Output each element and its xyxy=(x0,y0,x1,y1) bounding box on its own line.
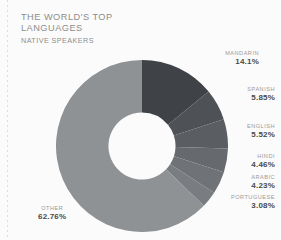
header-block: THE WORLD'S TOP LANGUAGES NATIVE SPEAKER… xyxy=(21,12,171,45)
callout-portuguese: PORTUGUESE 3.08% xyxy=(231,194,275,211)
callout-other-value: 62.76% xyxy=(38,212,66,222)
callout-english: ENGLISH 5.52% xyxy=(247,123,275,140)
callout-english-value: 5.52% xyxy=(247,130,275,140)
callout-mandarin-value: 14.1% xyxy=(225,57,259,67)
callout-mandarin-name: MANDARIN xyxy=(225,50,259,57)
callout-spanish: SPANISH 5.85% xyxy=(247,86,275,103)
left-dotted-rule xyxy=(7,0,8,240)
donut-chart xyxy=(56,60,228,232)
callout-arabic: ARABIC 4.23% xyxy=(251,174,275,191)
callout-hindi-name: HINDI xyxy=(251,153,275,160)
donut-slice-layer xyxy=(56,60,228,232)
donut-chart-svg xyxy=(56,60,228,232)
callout-english-name: ENGLISH xyxy=(247,123,275,130)
callout-hindi-value: 4.46% xyxy=(251,160,275,170)
callout-hindi: HINDI 4.46% xyxy=(251,153,275,170)
infographic-canvas: THE WORLD'S TOP LANGUAGES NATIVE SPEAKER… xyxy=(0,0,281,240)
callout-other: OTHER 62.76% xyxy=(38,205,66,222)
page-subtitle: NATIVE SPEAKERS xyxy=(21,36,171,45)
callout-other-name: OTHER xyxy=(38,205,66,212)
callout-spanish-name: SPANISH xyxy=(247,86,275,93)
callout-spanish-value: 5.85% xyxy=(247,93,275,103)
page-title: THE WORLD'S TOP LANGUAGES xyxy=(21,12,171,34)
callout-arabic-value: 4.23% xyxy=(251,181,275,191)
callout-portuguese-value: 3.08% xyxy=(231,201,275,211)
callout-arabic-name: ARABIC xyxy=(251,174,275,181)
callout-portuguese-name: PORTUGUESE xyxy=(231,194,275,201)
callout-mandarin: MANDARIN 14.1% xyxy=(225,50,259,67)
